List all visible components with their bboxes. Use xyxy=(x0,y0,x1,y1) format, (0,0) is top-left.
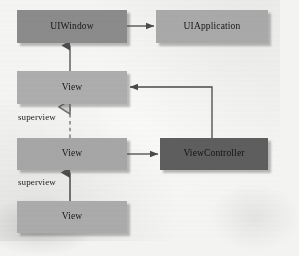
node-view-bottom-label: View xyxy=(62,212,83,222)
node-view-middle[interactable]: View xyxy=(17,138,127,170)
node-view-middle-label: View xyxy=(62,149,83,159)
node-view-bottom[interactable]: View xyxy=(17,201,127,233)
label-superview-upper: superview xyxy=(18,112,56,122)
node-uiapplication-label: UIApplication xyxy=(184,22,241,32)
node-uiapplication[interactable]: UIApplication xyxy=(156,10,268,43)
node-uiwindow-label: UIWindow xyxy=(50,22,94,32)
edge-viewcontroller-to-view-top xyxy=(130,87,212,138)
node-uiwindow[interactable]: UIWindow xyxy=(17,10,127,43)
node-view-top-label: View xyxy=(62,83,83,93)
label-superview-lower: superview xyxy=(18,177,56,187)
node-view-top[interactable]: View xyxy=(17,71,127,104)
node-viewcontroller[interactable]: ViewController xyxy=(160,138,268,170)
node-viewcontroller-label: ViewController xyxy=(183,149,244,159)
